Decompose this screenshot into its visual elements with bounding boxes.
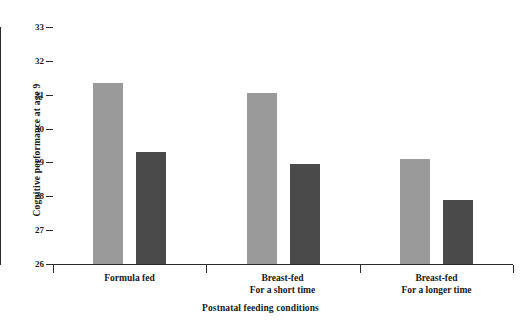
x-axis-line xyxy=(53,264,513,265)
group-label-line2: For a longer time xyxy=(360,284,513,296)
bar xyxy=(93,83,123,264)
x-axis-group-label: Breast-fedFor a short time xyxy=(206,272,359,296)
group-label-line1: Formula fed xyxy=(104,273,154,283)
bar xyxy=(247,93,277,264)
bar xyxy=(136,152,166,264)
bar-chart: Cognitive performance at age 9 262728293… xyxy=(0,0,521,322)
group-label-line2: For a short time xyxy=(206,284,359,296)
bar xyxy=(400,159,430,264)
group-label-line1: Breast-fed xyxy=(261,273,303,283)
x-axis-title: Postnatal feeding conditions xyxy=(0,303,521,313)
x-axis-group-label: Breast-fedFor a longer time xyxy=(360,272,513,296)
bars-layer xyxy=(0,0,521,264)
group-label-line1: Breast-fed xyxy=(415,273,457,283)
bar xyxy=(443,200,473,264)
y-axis-tick xyxy=(46,264,53,265)
bar xyxy=(290,164,320,264)
x-axis-tick xyxy=(513,265,514,273)
x-axis-group-label: Formula fed xyxy=(53,272,206,284)
